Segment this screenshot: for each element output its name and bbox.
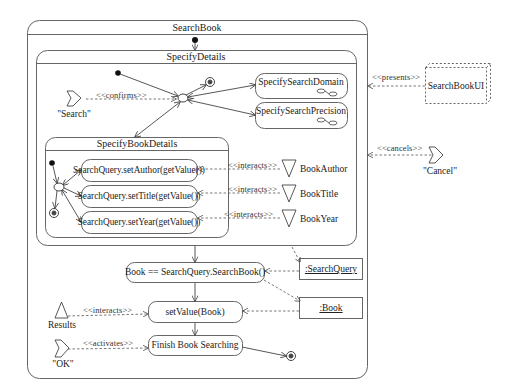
ok-event-label: "OK" [52, 358, 73, 370]
booktitle-input-icon [282, 185, 296, 202]
results-label: Results [48, 319, 76, 331]
presents-stereotype: <<presents>> [372, 71, 420, 83]
set-value-label: setValue(Book) [165, 306, 224, 318]
searchbook-initial-node [192, 37, 198, 43]
set-title-label: SearchQuery.setTitle(getValue()) [78, 190, 201, 202]
finish-searching-label: Finish Book Searching [151, 339, 238, 351]
specifysearchprecision-label: SpecifySearchPrecision [256, 105, 346, 117]
search-event-icon[interactable] [67, 91, 81, 106]
confirms-stereotype: <<confirms>> [96, 89, 147, 101]
searchquery-object-label: :SearchQuery [305, 263, 357, 275]
cancels-stereotype: <<cancels>> [377, 142, 422, 154]
specifydetails-initial-node [115, 70, 121, 76]
activates-stereotype: <<activates>> [83, 337, 133, 349]
bookdetails-initial-node [49, 160, 55, 166]
set-year-label: SearchQuery.setYear(getValue()) [78, 216, 201, 228]
specifydetails-final-node [206, 78, 215, 87]
bookdetails-final-node [50, 209, 59, 218]
specifydetails-title: SpecifyDetails [167, 51, 226, 63]
interacts-author-stereotype: <<interacts>> [228, 159, 277, 171]
searchbookui-label: SearchBookUI [428, 80, 484, 92]
results-output-icon [55, 302, 68, 318]
interacts-results-stereotype: <<interacts>> [83, 304, 132, 316]
ok-event-icon[interactable] [55, 340, 69, 357]
bookauthor-input-icon [282, 160, 296, 177]
searchbook-title: SearchBook [173, 22, 222, 34]
bookyear-label: BookYear [300, 213, 338, 225]
bookdetails-junction [54, 183, 64, 191]
search-event-label: "Search" [57, 108, 91, 120]
searchbook-final-node [287, 352, 296, 361]
bookyear-input-icon [282, 210, 296, 227]
bookauthor-label: BookAuthor [300, 163, 348, 175]
specifysearchdomain-label: SpecifySearchDomain [258, 76, 343, 88]
cancel-event-label: "Cancel" [423, 165, 457, 177]
interacts-year-stereotype: <<interacts>> [224, 208, 273, 220]
booktitle-label: BookTitle [300, 188, 338, 200]
set-author-label: SearchQuery.setAuthor(getValue()) [73, 164, 205, 176]
specifybookdetails-title: SpecifyBookDetails [97, 138, 178, 150]
book-object-label: :Book [319, 302, 342, 314]
search-book-label: Book == SearchQuery.SearchBook() [125, 266, 265, 278]
interacts-title-stereotype: <<interacts>> [228, 183, 277, 195]
